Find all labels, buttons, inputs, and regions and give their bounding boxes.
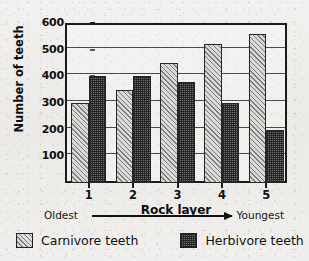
y-tick-label-500: 500 [42, 44, 64, 55]
legend-item-carnivore: Carnivore teeth [16, 233, 138, 248]
y-axis-tick-labels: 100200300400500600 [30, 14, 64, 192]
bars-layer [65, 23, 287, 183]
bar-herbivore-layer-2 [133, 76, 151, 183]
bar-herbivore-layer-4 [222, 103, 240, 183]
legend-label-herbivore: Herbivore teeth [205, 233, 303, 248]
y-tick-label-200: 200 [42, 124, 64, 135]
bar-herbivore-layer-1 [89, 76, 107, 183]
carnivore-hatch-swatch [16, 233, 33, 248]
bar-carnivore-layer-4 [204, 44, 222, 183]
legend-item-herbivore: Herbivore teeth [180, 233, 303, 248]
oldest-label: Oldest [44, 209, 78, 221]
chart-legend: Carnivore teeth Herbivore teeth [8, 226, 301, 254]
bar-group-layer-1 [71, 23, 106, 183]
youngest-label: Youngest [237, 209, 284, 221]
bar-group-layer-5 [249, 23, 284, 183]
y-tick-label-600: 600 [42, 17, 64, 28]
bar-group-layer-4 [204, 23, 239, 183]
x-tick-label-4: 4 [212, 188, 232, 202]
bar-chart-figure: Number of teeth 100200300400500600 Rock … [0, 0, 309, 261]
bar-herbivore-layer-3 [178, 82, 196, 183]
y-tick-label-300: 300 [42, 97, 64, 108]
bar-group-layer-2 [116, 23, 151, 183]
age-direction-row: Oldest Youngest [44, 209, 284, 223]
bar-carnivore-layer-2 [116, 90, 134, 183]
y-axis-title: Number of teeth [12, 14, 26, 144]
y-tick-label-100: 100 [42, 150, 64, 161]
bar-carnivore-layer-1 [71, 103, 89, 183]
x-tick-label-1: 1 [79, 188, 99, 202]
herbivore-stipple-swatch [180, 233, 197, 248]
x-tick-label-3: 3 [168, 188, 188, 202]
bar-herbivore-layer-5 [266, 130, 284, 183]
right-arrow-icon [92, 215, 232, 217]
bar-group-layer-3 [160, 23, 195, 183]
bar-carnivore-layer-5 [249, 34, 267, 183]
y-tick-label-400: 400 [42, 70, 64, 81]
bar-carnivore-layer-3 [160, 63, 178, 183]
legend-label-carnivore: Carnivore teeth [41, 233, 138, 248]
x-tick-label-5: 5 [256, 188, 276, 202]
x-tick-label-2: 2 [123, 188, 143, 202]
